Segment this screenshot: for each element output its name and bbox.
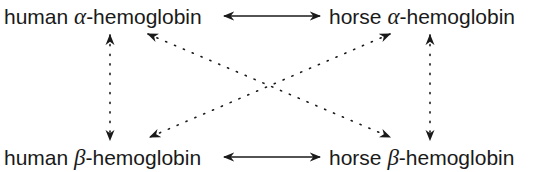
edge-diag-horse-alpha-human-beta: [150, 34, 390, 137]
node-suffix: -hemoglobin: [86, 5, 202, 28]
node-prefix: horse: [329, 146, 387, 169]
node-prefix: horse: [329, 5, 387, 28]
node-human-alpha-hemoglobin: human α-hemoglobin: [4, 5, 202, 28]
greek-beta: β: [74, 145, 85, 170]
node-suffix: -hemoglobin: [399, 5, 515, 28]
node-horse-alpha-hemoglobin: horse α-hemoglobin: [329, 5, 515, 28]
node-prefix: human: [4, 146, 74, 169]
node-prefix: human: [4, 5, 74, 28]
greek-beta: β: [387, 145, 398, 170]
node-horse-beta-hemoglobin: horse β-hemoglobin: [329, 146, 514, 169]
node-suffix: -hemoglobin: [399, 146, 515, 169]
node-human-beta-hemoglobin: human β-hemoglobin: [4, 146, 201, 169]
greek-alpha: α: [387, 4, 399, 29]
node-suffix: -hemoglobin: [86, 146, 202, 169]
greek-alpha: α: [74, 4, 86, 29]
